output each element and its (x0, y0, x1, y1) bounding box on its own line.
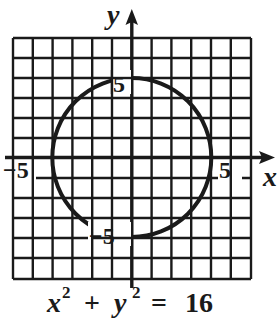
equation-x: x (46, 287, 61, 318)
equation: x 2 + y 2 = 16 (46, 283, 213, 318)
equation-y-exponent: 2 (132, 283, 141, 302)
axes (5, 20, 264, 288)
y-axis-label: y (104, 0, 120, 30)
equation-rhs: 16 (185, 287, 213, 318)
equation-plus: + (84, 287, 100, 318)
x-tick-pos5: 5 (219, 157, 231, 183)
equation-x-exponent: 2 (62, 283, 71, 302)
equation-y: y (111, 287, 127, 318)
circle-graph: −5 5 5 −5 y x x 2 + y 2 = 16 (0, 0, 280, 324)
equation-equals: = (151, 287, 167, 318)
x-axis-label: x (262, 161, 277, 192)
y-tick-pos5: 5 (113, 71, 125, 97)
x-tick-neg5: −5 (3, 157, 29, 183)
y-tick-neg5: −5 (89, 223, 115, 249)
